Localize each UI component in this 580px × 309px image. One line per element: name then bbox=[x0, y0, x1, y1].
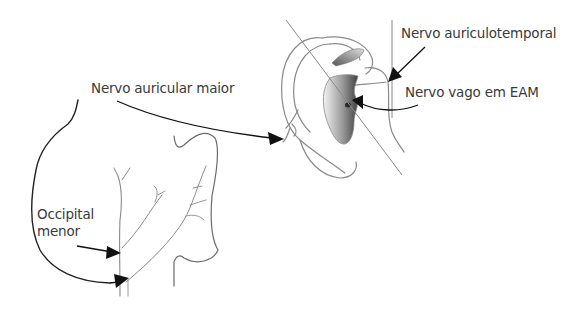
arrowhead-occipital bbox=[106, 246, 121, 259]
arrowhead-auricular-maior bbox=[268, 132, 284, 145]
reference-line-diagonal bbox=[286, 20, 402, 175]
neck-illustration bbox=[32, 100, 218, 296]
arrowhead-auriculotemporal bbox=[388, 67, 402, 82]
label-nervo-auricular-maior: Nervo auricular maior bbox=[91, 80, 234, 97]
label-occipital-menor: Occipital menor bbox=[37, 206, 94, 240]
diagram-canvas bbox=[0, 0, 580, 309]
label-occipital-line2: menor bbox=[37, 223, 94, 240]
arrowheads bbox=[106, 67, 402, 288]
label-occipital-line1: Occipital bbox=[37, 206, 94, 223]
label-nervo-vago-eam: Nervo vago em EAM bbox=[405, 84, 539, 101]
label-nervo-auriculotemporal: Nervo auriculotemporal bbox=[401, 25, 556, 42]
